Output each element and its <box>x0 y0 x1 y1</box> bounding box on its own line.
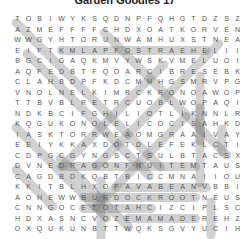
grid-cell[interactable]: C <box>177 203 188 214</box>
grid-cell[interactable]: E <box>45 25 56 36</box>
grid-cell[interactable]: D <box>67 172 78 183</box>
grid-cell[interactable]: U <box>100 35 111 46</box>
grid-cell[interactable]: Y <box>232 130 243 141</box>
grid-cell[interactable]: T <box>100 224 111 235</box>
grid-cell[interactable]: Q <box>34 224 45 235</box>
grid-cell[interactable]: B <box>56 182 67 193</box>
grid-cell[interactable]: E <box>188 56 199 67</box>
grid-cell[interactable]: O <box>188 88 199 99</box>
grid-cell[interactable]: I <box>221 224 232 235</box>
grid-cell[interactable]: H <box>232 224 243 235</box>
grid-cell[interactable]: T <box>199 161 210 172</box>
grid-cell[interactable]: N <box>34 161 45 172</box>
grid-cell[interactable]: B <box>56 98 67 109</box>
grid-cell[interactable]: P <box>78 77 89 88</box>
grid-cell[interactable]: G <box>155 130 166 141</box>
grid-cell[interactable]: Y <box>78 151 89 162</box>
grid-cell[interactable]: M <box>166 172 177 183</box>
grid-cell[interactable]: R <box>155 193 166 204</box>
grid-cell[interactable]: M <box>155 214 166 225</box>
grid-cell[interactable]: N <box>78 119 89 130</box>
grid-cell[interactable]: D <box>56 67 67 78</box>
grid-cell[interactable]: E <box>78 203 89 214</box>
grid-cell[interactable]: H <box>78 182 89 193</box>
grid-cell[interactable]: O <box>133 130 144 141</box>
grid-cell[interactable]: S <box>221 14 232 25</box>
grid-cell[interactable]: N <box>23 203 34 214</box>
grid-cell[interactable]: V <box>45 98 56 109</box>
grid-cell[interactable]: M <box>67 46 78 57</box>
grid-cell[interactable]: Y <box>188 224 199 235</box>
grid-cell[interactable]: S <box>199 67 210 78</box>
grid-cell[interactable]: O <box>34 88 45 99</box>
grid-cell[interactable]: I <box>45 56 56 67</box>
grid-cell[interactable]: O <box>78 35 89 46</box>
grid-cell[interactable]: R <box>78 98 89 109</box>
grid-cell[interactable]: T <box>188 193 199 204</box>
grid-cell[interactable]: O <box>144 98 155 109</box>
grid-cell[interactable]: E <box>210 193 221 204</box>
grid-cell[interactable]: W <box>12 35 23 46</box>
grid-cell[interactable]: V <box>210 77 221 88</box>
grid-cell[interactable]: I <box>155 161 166 172</box>
grid-cell[interactable]: R <box>122 88 133 99</box>
grid-cell[interactable]: B <box>34 14 45 25</box>
grid-cell[interactable]: M <box>100 56 111 67</box>
grid-cell[interactable]: M <box>133 214 144 225</box>
grid-cell[interactable]: F <box>166 140 177 151</box>
grid-cell[interactable]: R <box>111 98 122 109</box>
grid-cell[interactable]: L <box>210 46 221 57</box>
grid-cell[interactable]: S <box>232 161 243 172</box>
grid-cell[interactable]: T <box>56 130 67 141</box>
grid-cell[interactable]: D <box>177 214 188 225</box>
grid-cell[interactable]: C <box>34 56 45 67</box>
grid-cell[interactable]: E <box>45 161 56 172</box>
grid-cell[interactable]: C <box>122 98 133 109</box>
grid-cell[interactable]: I <box>232 182 243 193</box>
grid-cell[interactable]: I <box>67 109 78 120</box>
grid-cell[interactable]: T <box>144 46 155 57</box>
grid-cell[interactable]: T <box>166 25 177 36</box>
grid-cell[interactable]: S <box>144 56 155 67</box>
grid-cell[interactable]: D <box>12 161 23 172</box>
grid-cell[interactable]: K <box>188 109 199 120</box>
grid-cell[interactable]: A <box>45 214 56 225</box>
grid-cell[interactable]: S <box>133 46 144 57</box>
grid-cell[interactable]: E <box>210 67 221 78</box>
grid-cell[interactable]: G <box>232 77 243 88</box>
grid-cell[interactable]: L <box>166 109 177 120</box>
grid-cell[interactable]: P <box>221 77 232 88</box>
grid-cell[interactable]: Q <box>89 172 100 183</box>
grid-cell[interactable]: L <box>221 109 232 120</box>
grid-cell[interactable]: B <box>45 109 56 120</box>
grid-cell[interactable]: D <box>23 109 34 120</box>
grid-cell[interactable]: T <box>111 172 122 183</box>
grid-cell[interactable]: F <box>89 25 100 36</box>
grid-cell[interactable]: H <box>133 203 144 214</box>
grid-cell[interactable]: O <box>111 67 122 78</box>
grid-cell[interactable]: F <box>67 25 78 36</box>
grid-cell[interactable]: I <box>221 46 232 57</box>
grid-cell[interactable]: H <box>56 35 67 46</box>
grid-cell[interactable]: L <box>166 98 177 109</box>
grid-cell[interactable]: H <box>155 35 166 46</box>
grid-cell[interactable]: M <box>177 56 188 67</box>
grid-cell[interactable]: N <box>67 214 78 225</box>
grid-cell[interactable]: E <box>177 140 188 151</box>
grid-cell[interactable]: N <box>188 182 199 193</box>
grid-cell[interactable]: E <box>12 46 23 57</box>
grid-cell[interactable]: N <box>177 172 188 183</box>
grid-cell[interactable]: K <box>56 140 67 151</box>
grid-cell[interactable]: K <box>56 119 67 130</box>
grid-cell[interactable]: B <box>122 172 133 183</box>
grid-cell[interactable]: P <box>100 46 111 57</box>
grid-cell[interactable]: A <box>199 151 210 162</box>
grid-cell[interactable]: V <box>199 182 210 193</box>
grid-cell[interactable]: A <box>122 203 133 214</box>
grid-cell[interactable]: K <box>177 25 188 36</box>
grid-cell[interactable]: T <box>188 151 199 162</box>
grid-cell[interactable]: C <box>155 172 166 183</box>
grid-cell[interactable]: N <box>78 224 89 235</box>
grid-cell[interactable]: O <box>221 172 232 183</box>
grid-cell[interactable]: E <box>210 214 221 225</box>
